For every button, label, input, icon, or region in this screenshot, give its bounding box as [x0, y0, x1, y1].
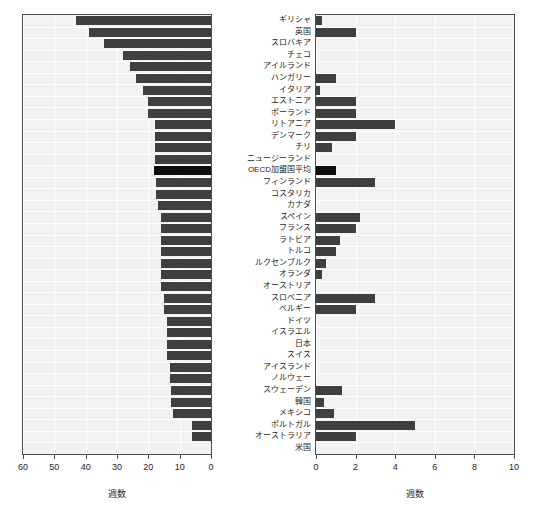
category-label: オランダ — [211, 269, 311, 278]
category-label: スウェーデン — [211, 385, 311, 394]
bar — [167, 328, 211, 337]
bar — [316, 166, 336, 175]
bar — [76, 16, 211, 25]
category-label: アイルランド — [211, 61, 311, 70]
bar — [171, 398, 211, 407]
axis-tick — [23, 455, 24, 459]
bar — [164, 305, 211, 314]
bar — [161, 270, 211, 279]
axis-tick — [435, 455, 436, 459]
bar — [104, 39, 211, 48]
category-label: チリ — [211, 142, 311, 151]
bar — [316, 270, 322, 279]
category-label: トルコ — [211, 246, 311, 255]
axis-tick-label: 4 — [380, 462, 410, 472]
axis-tick — [395, 455, 396, 459]
left-chart-bars — [23, 15, 211, 454]
category-label: チェコ — [211, 50, 311, 59]
bar — [316, 213, 360, 222]
left-chart-x-axis-title: 週数 — [57, 487, 177, 500]
category-label: ギリシャ — [211, 15, 311, 24]
gridline — [514, 15, 515, 454]
axis-tick — [514, 455, 515, 459]
bar — [316, 259, 326, 268]
axis-tick-label: 8 — [459, 462, 489, 472]
category-label: デンマーク — [211, 131, 311, 140]
axis-tick-label: 40 — [71, 462, 101, 472]
bar — [171, 386, 211, 395]
category-label: コスタリカ — [211, 189, 311, 198]
bar — [316, 86, 320, 95]
bar — [136, 74, 211, 83]
category-label: ラトビア — [211, 235, 311, 244]
axis-tick-label: 50 — [39, 462, 69, 472]
chart-page: ギリシャ英国スロバキアチェコアイルランドハンガリーイタリアエストニアポーランドリ… — [0, 0, 533, 512]
bar — [192, 432, 211, 441]
bar — [161, 213, 211, 222]
category-label: 韓国 — [211, 397, 311, 406]
category-label: スペイン — [211, 212, 311, 221]
category-label: イタリア — [211, 85, 311, 94]
axis-tick-label: 30 — [102, 462, 132, 472]
bar — [316, 224, 356, 233]
category-label: ポーランド — [211, 108, 311, 117]
bar — [316, 247, 336, 256]
bar — [316, 74, 336, 83]
bar — [316, 178, 375, 187]
bar — [161, 224, 211, 233]
right-chart-x-axis-title: 週数 — [355, 487, 475, 500]
category-label: スロベニア — [211, 293, 311, 302]
category-label: ルクセンブルク — [211, 258, 311, 267]
bar — [155, 143, 211, 152]
axis-tick-label: 60 — [8, 462, 38, 472]
bar — [143, 86, 211, 95]
axis-tick-label: 10 — [499, 462, 529, 472]
bar — [156, 190, 211, 199]
axis-tick — [148, 455, 149, 459]
bar — [316, 28, 356, 37]
category-label: ポルトガル — [211, 420, 311, 429]
axis-tick — [180, 455, 181, 459]
axis-tick-label: 0 — [196, 462, 226, 472]
bar — [316, 120, 395, 129]
category-label-column: ギリシャ英国スロバキアチェコアイルランドハンガリーイタリアエストニアポーランドリ… — [214, 14, 314, 455]
bar — [167, 340, 211, 349]
axis-tick — [211, 455, 212, 459]
bar — [158, 201, 211, 210]
right-bar-chart-plot-area — [315, 14, 515, 455]
bar — [156, 178, 211, 187]
category-label: リトアニア — [211, 119, 311, 128]
bar — [161, 259, 211, 268]
category-label: ハンガリー — [211, 73, 311, 82]
axis-tick — [54, 455, 55, 459]
bar — [316, 409, 334, 418]
bar — [154, 166, 211, 175]
bar — [173, 409, 211, 418]
category-label: ノルウェー — [211, 373, 311, 382]
category-label: スイス — [211, 350, 311, 359]
bar — [316, 97, 356, 106]
bar — [123, 51, 211, 60]
bar — [316, 236, 340, 245]
bar — [170, 374, 211, 383]
bar — [316, 16, 322, 25]
category-label: メキシコ — [211, 408, 311, 417]
axis-tick-label: 10 — [165, 462, 195, 472]
bar — [155, 120, 211, 129]
bar — [164, 294, 211, 303]
axis-tick — [316, 455, 317, 459]
category-label: フランス — [211, 223, 311, 232]
axis-tick — [474, 455, 475, 459]
category-label: ニュージーランド — [211, 154, 311, 163]
axis-tick-label: 6 — [420, 462, 450, 472]
axis-tick — [86, 455, 87, 459]
bar — [316, 421, 415, 430]
right-chart-bars — [316, 15, 514, 454]
bar — [192, 421, 211, 430]
category-label: ドイツ — [211, 316, 311, 325]
bar — [148, 97, 211, 106]
category-label: オーストラリア — [211, 431, 311, 440]
category-label: OECD加盟国平均 — [211, 165, 311, 174]
bar — [316, 143, 332, 152]
axis-tick-label: 20 — [133, 462, 163, 472]
